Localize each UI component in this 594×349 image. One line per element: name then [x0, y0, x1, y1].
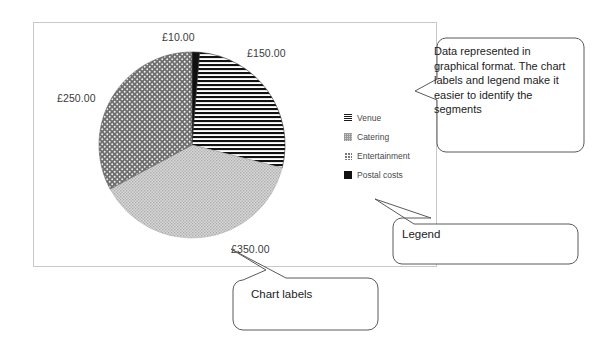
screenshot-canvas: £10.00 £150.00 £250.00 £350.00 Venue Cat… — [0, 0, 594, 349]
solid-black-swatch-icon — [344, 171, 352, 179]
pie-label-venue: £150.00 — [247, 47, 286, 59]
dots-dark-swatch-icon — [344, 152, 352, 160]
legend-item-label: Venue — [357, 113, 381, 123]
pie-label-postal-costs: £10.00 — [162, 31, 195, 43]
horizontal-lines-swatch-icon — [344, 114, 352, 122]
callout-description-text: Data represented in graphical format. Th… — [434, 44, 576, 117]
pie-chart[interactable] — [66, 28, 318, 264]
fine-dots-swatch-icon — [344, 133, 352, 141]
callout-chart-labels-text: Chart labels — [251, 288, 312, 300]
legend-item-label: Entertainment — [357, 151, 410, 161]
pie-label-catering: £250.00 — [57, 92, 96, 104]
legend-item-label: Catering — [357, 132, 389, 142]
callout-legend-text: Legend — [402, 228, 440, 240]
legend-item-label: Postal costs — [357, 170, 403, 180]
legend-item-postal-costs[interactable]: Postal costs — [344, 165, 434, 184]
